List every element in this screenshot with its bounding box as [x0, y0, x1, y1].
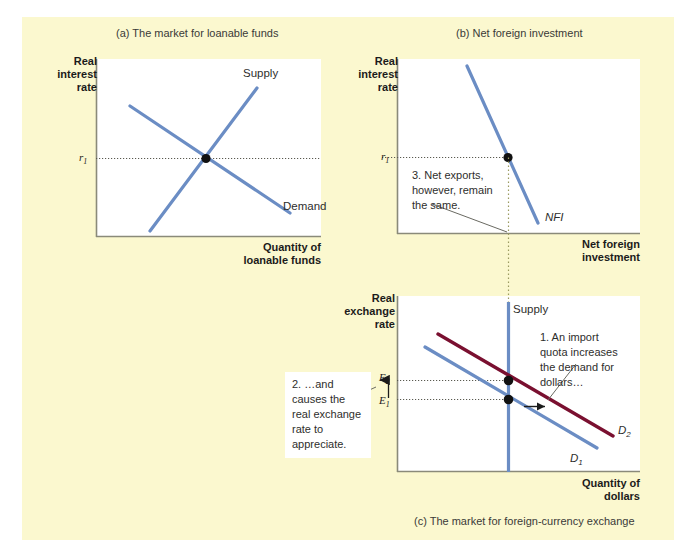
panel-b-y-axis-label-line2: interest [358, 68, 398, 81]
panel-a-y-axis-label-line3: rate [57, 81, 97, 94]
panel-b-x-axis-label: Net foreign investment [545, 238, 640, 264]
panel-a-y-axis-label: Real interest rate [57, 55, 97, 94]
panel-c-y-axis-label-line2: exchange [335, 305, 395, 318]
panel-a-tick-r1-sub: 1 [83, 157, 87, 166]
panel-a-x-axis-label-line2: loanable funds [211, 254, 321, 267]
figure-root: (a) The market for loanable funds Real i… [0, 0, 695, 558]
figure-drawing [0, 0, 695, 558]
panel-c-note2-line5: appreciate. [292, 437, 364, 452]
panel-c-note1-line1: 1. An import [540, 330, 618, 345]
panel-c-e-dotted-lines [397, 381, 508, 400]
panel-c-caption: (c) The market for foreign-currency exch… [414, 515, 635, 527]
panel-c-tick-e1-letter: E [379, 394, 386, 406]
panel-c-y-axis-label-line3: rate [335, 318, 395, 331]
panel-c-note2-line1: 2. …and [292, 377, 364, 392]
panel-b-caption: (b) Net foreign investment [456, 27, 583, 39]
panel-c-y-axis-label-line1: Real [335, 292, 395, 305]
panel-c-supply-label: Supply [513, 303, 548, 315]
panel-b-x-axis-label-line2: investment [545, 251, 640, 264]
panel-c-note-appreciate: 2. …and causes the real exchange rate to… [285, 372, 371, 458]
panel-b-y-axis-label-line3: rate [358, 81, 398, 94]
panel-b-y-axis-label-line1: Real [358, 55, 398, 68]
panel-b-note-net-exports: 3. Net exports, however, remain the same… [412, 168, 493, 213]
panel-a-y-axis-label-line2: interest [57, 68, 97, 81]
panel-a-y-axis-label-line1: Real [57, 55, 97, 68]
panel-c-tick-e1-sub: 1 [386, 400, 390, 409]
panel-c-demand2-label: D2 [618, 424, 631, 439]
panel-c-note2-line4: rate to [292, 422, 364, 437]
panel-b-tick-r1-sub: 1 [385, 156, 389, 165]
panel-b-note-line3: the same. [412, 198, 493, 213]
panel-c-demand1-label: D1 [570, 452, 583, 467]
panel-b-y-axis-label: Real interest rate [358, 55, 398, 94]
panel-c-note-import-quota: 1. An import quota increases the demand … [540, 330, 618, 390]
panel-c-y-axis-label: Real exchange rate [335, 292, 395, 331]
panel-c-tick-e1: E1 [379, 394, 390, 409]
panel-b-tick-r1: r1 [381, 150, 389, 165]
panel-c-tick-e2-sub: 2 [386, 377, 390, 386]
panel-a-supply-label: Supply [243, 67, 278, 79]
panel-b-x-axis-label-line1: Net foreign [545, 238, 640, 251]
panel-c-note2-line2: causes the [292, 392, 364, 407]
panel-b-note-line1: 3. Net exports, [412, 168, 493, 183]
panel-c-x-axis-label-line1: Quantity of [545, 477, 640, 490]
panel-c-x-axis-label: Quantity of dollars [545, 477, 640, 503]
panel-b-nfi-label: NFI [545, 211, 564, 223]
panel-a-x-axis-label: Quantity of loanable funds [211, 241, 321, 267]
panel-a-caption: (a) The market for loanable funds [116, 27, 278, 39]
panel-b-note-line2: however, remain [412, 183, 493, 198]
panel-c-note1-line3: the demand for [540, 360, 618, 375]
panel-a-equilibrium-point [201, 154, 210, 163]
panel-c-tick-e2-letter: E [379, 371, 386, 383]
panel-a-tick-r1: r1 [79, 151, 87, 166]
panel-c-tick-e2: E2 [379, 371, 390, 386]
panel-c-demand1-sub: 1 [578, 458, 582, 467]
panel-c-demand2-sub: 2 [626, 430, 630, 439]
panel-a-x-axis-label-line1: Quantity of [211, 241, 321, 254]
panel-c-x-axis-label-line2: dollars [545, 490, 640, 503]
panel-a-demand-label: Demand [283, 200, 326, 212]
panel-c-note2-line3: real exchange [292, 407, 364, 422]
panel-c-note1-line2: quota increases [540, 345, 618, 360]
panel-c-equilibrium-point-e2 [504, 376, 514, 386]
panel-c-equilibrium-point-e1 [504, 395, 514, 405]
panel-c-note1-line4: dollars… [540, 375, 618, 390]
